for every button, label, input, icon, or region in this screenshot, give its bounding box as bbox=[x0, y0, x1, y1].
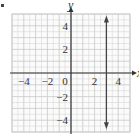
x-axis-label: x bbox=[136, 66, 139, 80]
y-tick-label: −2 bbox=[56, 91, 68, 103]
x-tick-label: 0 bbox=[62, 75, 68, 87]
y-tick-label: 2 bbox=[63, 43, 69, 55]
y-tick-label: −4 bbox=[56, 114, 68, 126]
x-tick-label: −4 bbox=[18, 75, 30, 87]
y-axis-label: y bbox=[67, 0, 74, 12]
x-tick-label: −2 bbox=[42, 75, 54, 87]
y-tick-label: 4 bbox=[63, 20, 69, 32]
coordinate-plane-chart: −4−202442−2−4 x y bbox=[0, 0, 139, 140]
x-tick-label: 4 bbox=[115, 75, 121, 87]
x-tick-label: 2 bbox=[92, 75, 98, 87]
